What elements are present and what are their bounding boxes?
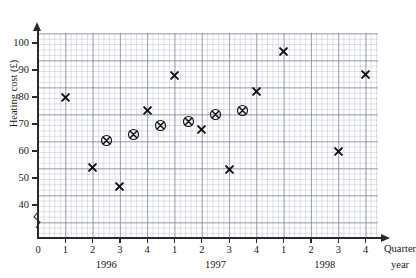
x-tick-label: 3: [111, 244, 129, 255]
y-tick: [32, 96, 38, 97]
x-tick: [365, 237, 366, 243]
y-tick-label: 40: [4, 200, 29, 211]
x-tick: [92, 237, 93, 243]
x-tick-label: 4: [357, 244, 375, 255]
y-axis-break-icon: [31, 210, 43, 230]
y-tick: [32, 204, 38, 205]
y-tick-label: 50: [4, 173, 29, 184]
data-point: [114, 181, 125, 192]
y-axis-line: [37, 30, 39, 239]
moving-average-point: [154, 119, 167, 132]
x-tick: [310, 237, 311, 243]
data-point: [224, 164, 235, 175]
moving-average-point: [209, 108, 222, 121]
x-axis-title-quarter: Quarter: [384, 243, 416, 254]
x-tick: [229, 237, 230, 243]
y-tick: [32, 177, 38, 178]
moving-average-point: [100, 134, 113, 147]
moving-average-point: [127, 128, 140, 141]
y-axis-arrow: [33, 22, 41, 31]
x-tick-label: 1: [166, 244, 184, 255]
plot-area: [38, 33, 378, 238]
x-tick: [147, 237, 148, 243]
x-tick-label: 2: [302, 244, 320, 255]
x-tick-label: 2: [193, 244, 211, 255]
x-axis-arrow: [381, 234, 390, 242]
y-tick: [32, 69, 38, 70]
major-gridlines: [38, 33, 378, 238]
x-axis-year-label: 1996: [84, 259, 128, 270]
x-origin-label: 0: [29, 244, 47, 255]
y-tick: [32, 150, 38, 151]
data-point: [278, 46, 289, 57]
data-point: [142, 105, 153, 116]
x-tick: [256, 237, 257, 243]
x-tick-label: 1: [56, 244, 74, 255]
x-axis-year-label: 1997: [193, 259, 237, 270]
y-tick: [32, 123, 38, 124]
data-point: [87, 162, 98, 173]
data-point: [360, 69, 371, 80]
x-axis-title-year: year: [391, 259, 409, 270]
moving-average-point: [182, 115, 195, 128]
y-axis-title: Heating cost (£): [8, 34, 19, 154]
x-axis-line: [37, 237, 383, 239]
data-point: [60, 92, 71, 103]
x-tick: [338, 237, 339, 243]
x-tick: [65, 237, 66, 243]
x-tick-label: 1: [275, 244, 293, 255]
data-point: [169, 70, 180, 81]
data-point: [333, 146, 344, 157]
x-tick-label: 2: [84, 244, 102, 255]
x-tick: [201, 237, 202, 243]
data-point: [251, 86, 262, 97]
x-tick-label: 4: [247, 244, 265, 255]
x-tick: [119, 237, 120, 243]
x-tick: [174, 237, 175, 243]
y-tick: [32, 42, 38, 43]
x-tick-label: 4: [138, 244, 156, 255]
x-tick-label: 3: [329, 244, 347, 255]
x-tick-label: 3: [220, 244, 238, 255]
x-axis-year-label: 1998: [303, 259, 347, 270]
x-tick: [283, 237, 284, 243]
moving-average-point: [236, 104, 249, 117]
data-point: [196, 124, 207, 135]
